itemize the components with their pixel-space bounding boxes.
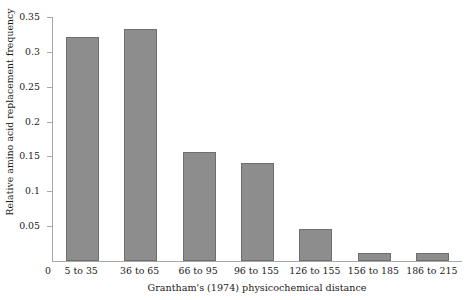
x-axis-tick-label: 5 to 35	[52, 264, 110, 277]
x-axis-tick-label: 96 to 155	[227, 264, 285, 277]
bar	[124, 29, 157, 261]
y-axis-tick-label: 0.3	[25, 45, 40, 58]
x-axis-tick-label: 126 to 155	[286, 264, 344, 277]
bar	[299, 229, 332, 261]
y-axis-tick-label: 0.05	[19, 219, 40, 232]
y-axis-tick-label: 0.25	[19, 80, 40, 93]
plot-area: 0.050.10.150.20.250.30.35	[52, 17, 462, 262]
x-axis-tick-label: 66 to 95	[169, 264, 227, 277]
y-axis-tick-label: 0.2	[25, 115, 40, 128]
bar	[416, 253, 449, 261]
x-axis-title: Grantham's (1974) physicochemical distan…	[52, 281, 462, 294]
y-axis-tick-label: 0.1	[25, 184, 40, 197]
bar	[358, 253, 391, 261]
y-axis-tick-label: 0.35	[19, 10, 40, 23]
bar	[241, 163, 274, 261]
x-axis-tick-label: 186 to 215	[403, 264, 461, 277]
x-axis-tick-label: 156 to 185	[344, 264, 402, 277]
bar-group	[53, 17, 462, 261]
bar	[183, 152, 216, 261]
x-axis-tick-label: 36 to 65	[110, 264, 168, 277]
bar	[66, 37, 99, 261]
bar-chart-figure: Relative amino acid replacement frequenc…	[0, 0, 470, 300]
y-axis-tick-label: 0.15	[19, 149, 40, 162]
x-axis-label-group: 5 to 3536 to 6566 to 9596 to 155126 to 1…	[52, 264, 462, 278]
x-axis-line	[52, 261, 462, 262]
y-axis-title: Relative amino acid replacement frequenc…	[2, 0, 18, 262]
